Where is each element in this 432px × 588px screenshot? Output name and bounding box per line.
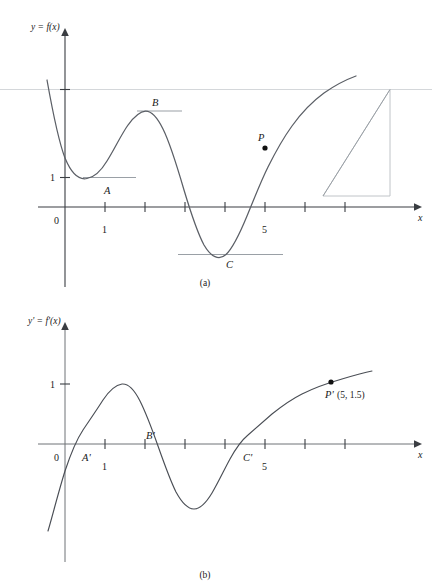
- panel-a-function-graph: y = f(x) x 0 1 5 1 A B C P (a): [0, 0, 432, 294]
- panel-a-x-axis-label: x: [417, 212, 423, 223]
- panel-a-origin-label: 0: [54, 215, 59, 226]
- curve-f-prime-of-x: [48, 371, 372, 531]
- figure-root: y = f(x) x 0 1 5 1 A B C P (a) y: [0, 0, 432, 588]
- label-point-P-prime-coordinates: (5, 1.5): [337, 390, 365, 401]
- panel-b-xtick-label-1: 1: [102, 461, 107, 472]
- panel-a-xtick-label-5: 5: [262, 224, 267, 235]
- panel-a-xtick-label-1: 1: [102, 224, 107, 235]
- panel-a-y-axis-label: y = f(x): [30, 22, 60, 33]
- label-point-B-prime: B': [146, 430, 155, 441]
- panel-a-y-axis-arrow: [61, 28, 69, 36]
- panel-b-ytick-label-1: 1: [50, 379, 55, 390]
- label-point-P-prime: P': [324, 389, 334, 400]
- panel-b-derivative-graph: y' = f'(x) x 0 1 5 1 A' B' C' P' (5, 1.5…: [0, 294, 432, 588]
- panel-b-x-axis-label: x: [417, 449, 423, 460]
- panel-a-x-axis-arrow: [414, 203, 422, 211]
- label-point-P: P: [257, 132, 265, 143]
- panel-b-origin-label: 0: [54, 452, 59, 463]
- tangent-line-at-P: [323, 90, 390, 197]
- caption-a: (a): [200, 278, 211, 289]
- panel-b-x-axis-arrow: [414, 440, 422, 448]
- point-P-prime-marker: [328, 379, 333, 384]
- label-point-C-prime: C': [243, 452, 253, 463]
- panel-b-xtick-label-5: 5: [262, 461, 267, 472]
- caption-b: (b): [199, 570, 210, 581]
- panel-b-y-axis-label: y' = f'(x): [27, 316, 61, 327]
- panel-a-ytick-label-1: 1: [50, 172, 55, 183]
- label-point-A-prime: A': [81, 452, 91, 463]
- label-point-A: A: [103, 185, 111, 196]
- label-point-C: C: [226, 259, 234, 270]
- point-P-marker: [262, 145, 267, 150]
- curve-f-of-x: [47, 76, 356, 258]
- label-point-B: B: [152, 97, 159, 108]
- panel-b-y-axis-arrow: [61, 322, 69, 330]
